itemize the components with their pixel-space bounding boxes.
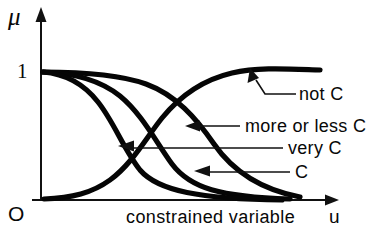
- arrowhead-c: [194, 166, 210, 177]
- callout-label-not-c: not C: [299, 85, 344, 103]
- arrowhead-more-or-less-c: [185, 121, 200, 132]
- leader-not-c: [256, 80, 296, 94]
- callout-label-more-or-less-c: more or less C: [245, 117, 366, 135]
- x-axis-arrowhead: [325, 195, 339, 206]
- membership-function-figure: μ 1 O constrained variable u not C more …: [0, 0, 388, 237]
- y-axis-symbol-label: μ: [8, 4, 21, 29]
- y-axis-tick-label-one: 1: [17, 61, 28, 82]
- x-axis-symbol-label: u: [329, 207, 340, 226]
- y-axis-arrowhead: [36, 7, 47, 22]
- callout-label-c: C: [295, 163, 308, 181]
- x-axis-title: constrained variable: [126, 208, 295, 226]
- origin-label: O: [8, 203, 24, 224]
- callout-label-very-c: very C: [288, 139, 342, 157]
